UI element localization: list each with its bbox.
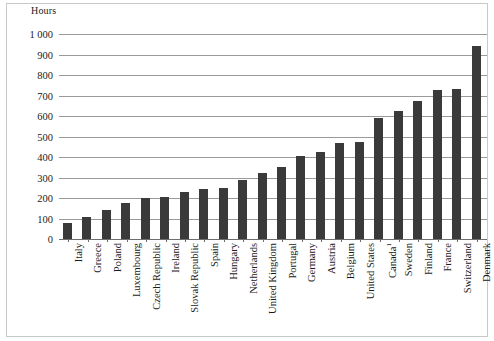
bar-slot (137, 34, 156, 239)
x-axis-label-slot: Netherlands (234, 243, 253, 339)
bar[interactable] (121, 203, 130, 239)
x-axis-label-slot: Portugal (273, 243, 292, 339)
x-axis-label-slot: Czech Republic (137, 243, 156, 339)
x-axis-category-labels: ItalyGreecePolandLuxembourgCzech Republi… (59, 243, 487, 339)
bar[interactable] (277, 167, 286, 239)
bar[interactable] (141, 198, 150, 239)
x-axis-tick (399, 239, 400, 242)
x-axis-label-slot: Hungary (215, 243, 234, 339)
y-axis-tick-label: 300 (37, 172, 53, 183)
x-axis-tick (380, 239, 381, 242)
y-axis-tick-labels: 1 0009008007006005004003002001000 (0, 34, 55, 239)
x-axis-tick (243, 239, 244, 242)
bar[interactable] (102, 210, 111, 239)
x-axis-tick (88, 239, 89, 242)
bar-slot (409, 34, 428, 239)
bar[interactable] (258, 173, 267, 239)
y-axis-tick-label: 200 (37, 193, 53, 204)
y-axis-tick-label: 700 (37, 90, 53, 101)
x-axis-label-slot: Austria (312, 243, 331, 339)
bar[interactable] (316, 152, 325, 239)
x-axis-tick (282, 239, 283, 242)
plot-area (59, 34, 487, 239)
bar[interactable] (63, 223, 72, 239)
x-axis-label-slot: Poland (98, 243, 117, 339)
bar[interactable] (413, 101, 422, 239)
bar-slot (254, 34, 273, 239)
bar[interactable] (199, 189, 208, 239)
x-axis-tick (457, 239, 458, 242)
x-axis-label-slot: Slovak Republic (176, 243, 195, 339)
y-axis-tick-label: 600 (37, 111, 53, 122)
x-axis-label-slot: Spain (195, 243, 214, 339)
x-axis-tick (185, 239, 186, 242)
y-axis-tick-label: 900 (37, 49, 53, 60)
y-axis-tick-label: 500 (37, 131, 53, 142)
y-axis-tick-label: 400 (37, 152, 53, 163)
x-axis-label-slot: Canada1 (370, 243, 389, 339)
bar-series (59, 34, 487, 239)
bar-slot (234, 34, 253, 239)
x-axis-label-slot: Ireland (156, 243, 175, 339)
bar[interactable] (296, 156, 305, 239)
y-axis-tick-label: 800 (37, 70, 53, 81)
bar[interactable] (238, 180, 247, 239)
bar[interactable] (374, 118, 383, 239)
bar[interactable] (472, 46, 481, 239)
x-axis-tick (68, 239, 69, 242)
x-axis-label-slot: Denmark (468, 243, 487, 339)
x-axis-tick (146, 239, 147, 242)
bar-slot (273, 34, 292, 239)
x-axis-tick (166, 239, 167, 242)
bar[interactable] (180, 192, 189, 239)
bar[interactable] (82, 217, 91, 239)
bar-slot (59, 34, 78, 239)
y-axis-tick-label: 1 000 (29, 29, 53, 40)
bar-slot (156, 34, 175, 239)
x-axis-category-label: Denmark (481, 243, 492, 282)
x-axis-label-slot: France (429, 243, 448, 339)
bar-slot (448, 34, 467, 239)
bar-slot (78, 34, 97, 239)
bar[interactable] (219, 188, 228, 239)
bar-slot (468, 34, 487, 239)
y-axis-tick-label: 0 (48, 234, 53, 245)
x-axis-tick (477, 239, 478, 242)
x-axis-label-slot: Switzerland (448, 243, 467, 339)
bar[interactable] (355, 142, 364, 239)
bar[interactable] (394, 111, 403, 239)
x-axis-tick (127, 239, 128, 242)
bar-slot (390, 34, 409, 239)
x-axis-tick (204, 239, 205, 242)
bar[interactable] (433, 90, 442, 239)
bar-slot (98, 34, 117, 239)
x-axis-tick (107, 239, 108, 242)
x-axis-label-slot: Greece (78, 243, 97, 339)
bar[interactable] (160, 197, 169, 239)
bar-slot (331, 34, 350, 239)
x-axis-tick (321, 239, 322, 242)
x-axis-label-slot: Luxembourg (117, 243, 136, 339)
x-axis-label-slot: Italy (59, 243, 78, 339)
bar[interactable] (335, 143, 344, 239)
x-axis-tick (438, 239, 439, 242)
x-axis-tick (341, 239, 342, 242)
y-axis-tick-label: 100 (37, 213, 53, 224)
bar-slot (429, 34, 448, 239)
bar-slot (351, 34, 370, 239)
bar-slot (312, 34, 331, 239)
bar[interactable] (452, 89, 461, 239)
y-axis-unit-label: Hours (31, 5, 56, 16)
x-axis-label-slot: United Kingdom (254, 243, 273, 339)
bar-slot (215, 34, 234, 239)
bar-slot (176, 34, 195, 239)
x-axis-label-slot: Finland (409, 243, 428, 339)
x-axis-tick (224, 239, 225, 242)
x-axis-tick (263, 239, 264, 242)
x-axis-label-slot: Sweden (390, 243, 409, 339)
x-axis-tick (418, 239, 419, 242)
x-axis-label-slot: Belgium (331, 243, 350, 339)
x-axis-tick (302, 239, 303, 242)
bar-slot (195, 34, 214, 239)
bar-slot (292, 34, 311, 239)
